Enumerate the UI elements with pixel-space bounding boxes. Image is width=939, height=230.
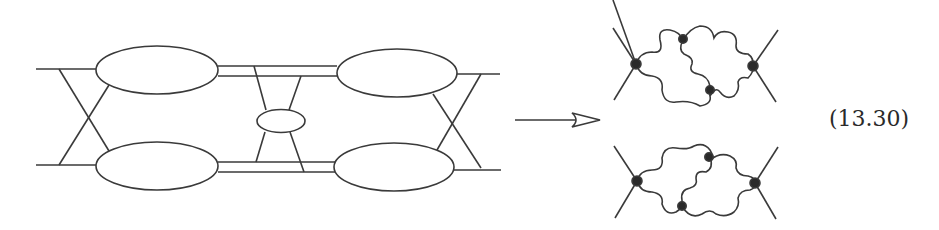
blob-bottom-right bbox=[334, 143, 454, 191]
diagram-canvas bbox=[0, 0, 939, 230]
right-diagram-lower bbox=[614, 145, 778, 219]
blob-top-right bbox=[337, 49, 457, 97]
blob-top-left bbox=[96, 46, 218, 94]
right-diagram-upper bbox=[613, 0, 778, 106]
arrow bbox=[515, 113, 600, 127]
equation-number: (13.30) bbox=[829, 106, 909, 131]
left-diagram bbox=[36, 46, 501, 191]
blob-center-small bbox=[257, 110, 305, 133]
blob-bottom-left bbox=[96, 142, 218, 190]
